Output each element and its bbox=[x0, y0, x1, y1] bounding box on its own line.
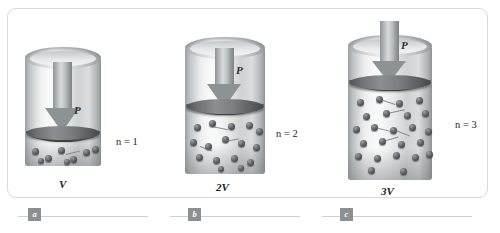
caption-marker-a: a bbox=[28, 208, 41, 221]
caption-marker-c: c bbox=[340, 208, 353, 221]
molecule bbox=[196, 154, 203, 161]
pressure-arrow-shaft-overlay-c bbox=[380, 21, 399, 63]
molecule bbox=[404, 112, 411, 119]
molecule bbox=[400, 168, 407, 175]
molecule bbox=[256, 128, 263, 135]
molecule bbox=[409, 124, 416, 131]
molecule bbox=[92, 146, 99, 153]
molecule bbox=[416, 97, 423, 104]
pressure-arrow-shaft-overlay-a bbox=[53, 62, 72, 110]
molecule bbox=[238, 140, 245, 147]
molecule bbox=[412, 154, 419, 161]
moles-label-b: n = 2 bbox=[276, 128, 298, 139]
molecule bbox=[32, 148, 39, 155]
piston-c bbox=[349, 75, 431, 90]
moles-label-a: n = 1 bbox=[116, 136, 138, 147]
pressure-label-c: P bbox=[401, 39, 408, 51]
molecule bbox=[231, 155, 238, 162]
molecule bbox=[396, 100, 403, 107]
piston-a bbox=[26, 126, 100, 140]
molecule bbox=[45, 155, 52, 162]
molecule bbox=[228, 123, 235, 130]
molecule bbox=[422, 110, 429, 117]
figure-container: P P n = 1 V bbox=[0, 0, 500, 233]
volume-label-b: 2V bbox=[216, 181, 229, 193]
molecule bbox=[363, 113, 370, 120]
molecule bbox=[83, 149, 90, 156]
molecule bbox=[355, 153, 362, 160]
pressure-label-overlay-a: P bbox=[74, 104, 81, 116]
pressure-arrow-shaft-b bbox=[215, 48, 234, 86]
molecule bbox=[368, 167, 375, 174]
molecule bbox=[353, 126, 360, 133]
piston-b bbox=[186, 99, 264, 114]
molecule bbox=[58, 147, 65, 154]
molecule bbox=[190, 139, 197, 146]
pressure-label-b: P bbox=[236, 64, 243, 76]
molecule bbox=[213, 157, 220, 164]
molecule bbox=[218, 166, 224, 172]
molecule bbox=[417, 139, 424, 146]
molecule bbox=[70, 156, 77, 163]
molecule bbox=[393, 152, 400, 159]
molecule bbox=[360, 140, 367, 147]
caption-row: a b c bbox=[0, 208, 500, 224]
molecule bbox=[253, 144, 260, 151]
molecule bbox=[374, 155, 381, 162]
caption-marker-b: b bbox=[188, 208, 201, 221]
molecule bbox=[246, 122, 253, 129]
molecule bbox=[247, 159, 254, 166]
molecule bbox=[426, 151, 433, 158]
molecule bbox=[64, 159, 70, 165]
molecule bbox=[398, 141, 405, 148]
molecule bbox=[194, 124, 201, 131]
molecule bbox=[238, 165, 244, 171]
molecule bbox=[425, 128, 432, 135]
moles-label-c: n = 3 bbox=[455, 119, 477, 130]
volume-label-c: 3V bbox=[381, 185, 394, 197]
volume-label-a: V bbox=[59, 178, 66, 190]
molecule bbox=[357, 99, 364, 106]
molecule bbox=[38, 158, 44, 164]
